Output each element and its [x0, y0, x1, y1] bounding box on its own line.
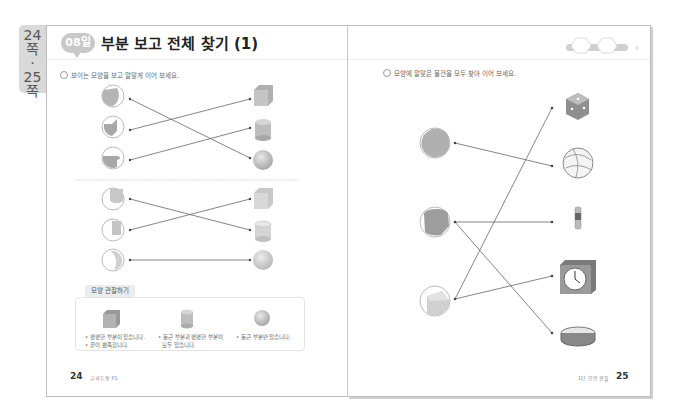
objects	[560, 93, 596, 346]
desc-line: 모두 있습니다.	[158, 341, 223, 349]
matching-artwork	[0, 0, 674, 413]
connecting-lines	[130, 99, 250, 160]
part-circle	[102, 85, 124, 169]
observation-label-text: 모양 관찰하기	[91, 287, 129, 295]
right-page-number: 25	[616, 371, 629, 381]
desc-line: • 둥근 부분만 있습니다.	[236, 333, 291, 341]
desc-line: • 끝이 뾰족합니다.	[85, 341, 145, 349]
left-page-number: 24	[70, 371, 83, 381]
cylinder-description: • 둥근 부분과 평평한 부분이 모두 있습니다.	[158, 333, 223, 349]
right-footer-text: 1단 모양 관찰	[578, 374, 609, 381]
whole-shapes	[253, 85, 273, 170]
desc-line: • 둥근 부분과 평평한 부분이	[158, 333, 223, 341]
sphere-description: • 둥근 부분만 있습니다.	[236, 333, 291, 341]
observation-label: 모양 관찰하기	[85, 285, 135, 297]
desc-line: • 평평한 부분이 있습니다.	[85, 333, 145, 341]
left-footer-text: 교과도형 P1	[90, 374, 118, 381]
cube-description: • 평평한 부분이 있습니다. • 끝이 뾰족합니다.	[85, 333, 145, 349]
